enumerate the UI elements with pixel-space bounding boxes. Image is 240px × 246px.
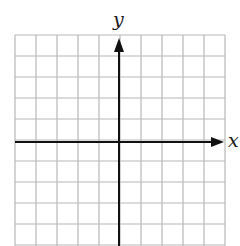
x-axis-arrow-icon [211,137,224,147]
y-axis-arrow-icon [114,38,124,52]
grid [0,0,240,246]
x-axis-label: x [228,131,239,150]
y-axis-label: y [113,10,124,29]
coordinate-plane: y x [0,0,240,246]
